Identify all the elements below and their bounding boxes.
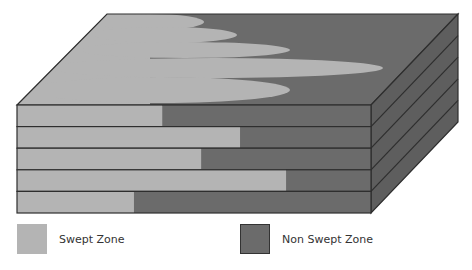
swept-segment [17,170,286,192]
legend-label-swept: Swept Zone [59,233,125,246]
legend-swept: Swept Zone [17,224,125,254]
swept-segment [17,105,162,127]
swept-segment [17,191,134,213]
layer-5 [17,191,371,213]
layer-2 [17,127,371,149]
non-swept-segment [162,105,371,127]
non-swept-segment [240,127,371,149]
reservoir-block-diagram [0,0,472,230]
non-swept-segment [201,148,371,170]
swept-swatch [17,224,47,254]
non-swept-segment [286,170,371,192]
non-swept-segment [134,191,371,213]
layer-1 [17,105,371,127]
non-swept-swatch [240,224,270,254]
legend-label-non-swept: Non Swept Zone [282,233,373,246]
layer-3 [17,148,371,170]
swept-segment [17,148,201,170]
layer-4 [17,170,371,192]
legend-non-swept: Non Swept Zone [240,224,373,254]
swept-segment [17,127,240,149]
front-face [17,105,371,213]
